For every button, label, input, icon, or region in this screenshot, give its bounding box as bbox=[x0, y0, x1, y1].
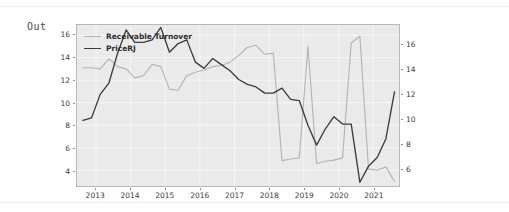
y-axis-right-tick-label: 12 bbox=[406, 90, 416, 99]
axis-tick-mark bbox=[95, 188, 96, 190]
y-axis-right-tick-label: 16 bbox=[406, 40, 416, 49]
axis-tick-mark bbox=[269, 188, 270, 190]
axis-tick-mark bbox=[73, 34, 75, 35]
matplotlib-figure: Receivable Turnover PriceRJ 46810121416 … bbox=[52, 17, 412, 203]
notebook-output-cell: Out Receivable Turnover PriceRJ 4681012 bbox=[0, 6, 509, 203]
axis-tick-mark bbox=[165, 188, 166, 190]
axis-tick-mark bbox=[401, 169, 403, 170]
y-axis-left-tick-label: 14 bbox=[52, 53, 70, 62]
axis-tick-mark bbox=[73, 103, 75, 104]
y-axis-right-tick-label: 6 bbox=[406, 165, 411, 174]
axis-tick-mark bbox=[401, 144, 403, 145]
y-axis-left-tick-label: 12 bbox=[52, 75, 70, 84]
axis-tick-mark bbox=[374, 188, 375, 190]
y-axis-left-tick-label: 8 bbox=[52, 121, 70, 130]
legend-label: PriceRJ bbox=[106, 44, 136, 53]
x-axis-tick-label: 2016 bbox=[190, 191, 209, 200]
x-axis-tick-label: 2021 bbox=[364, 191, 383, 200]
axis-tick-mark bbox=[401, 69, 403, 70]
legend-line-swatch-icon bbox=[84, 48, 101, 49]
legend-item-receivable-turnover: Receivable Turnover bbox=[84, 31, 192, 42]
y-axis-left-tick-label: 10 bbox=[52, 98, 70, 107]
axis-tick-mark bbox=[73, 125, 75, 126]
y-axis-right-tick-label: 10 bbox=[406, 115, 416, 124]
x-axis-tick-label: 2013 bbox=[86, 191, 105, 200]
screenshot-root: Out Receivable Turnover PriceRJ 4681012 bbox=[0, 0, 509, 212]
axis-tick-mark bbox=[401, 94, 403, 95]
axis-tick-mark bbox=[200, 188, 201, 190]
x-axis-tick-label: 2014 bbox=[120, 191, 139, 200]
y-axis-left-tick-label: 16 bbox=[52, 30, 70, 39]
axis-tick-mark bbox=[339, 188, 340, 190]
y-axis-left-tick-label: 4 bbox=[52, 167, 70, 176]
axis-tick-mark bbox=[73, 80, 75, 81]
legend-line-swatch-icon bbox=[84, 36, 101, 37]
x-axis-tick-label: 2015 bbox=[155, 191, 174, 200]
y-axis-right-tick-label: 8 bbox=[406, 140, 411, 149]
axis-tick-mark bbox=[130, 188, 131, 190]
y-axis-left-tick-label: 6 bbox=[52, 144, 70, 153]
x-axis-tick-label: 2017 bbox=[225, 191, 244, 200]
axis-tick-mark bbox=[235, 188, 236, 190]
legend-label: Receivable Turnover bbox=[106, 32, 192, 41]
legend-item-pricerj: PriceRJ bbox=[84, 43, 192, 54]
axis-tick-mark bbox=[73, 57, 75, 58]
output-prompt-label: Out bbox=[27, 21, 47, 32]
x-axis-tick-label: 2019 bbox=[295, 191, 314, 200]
x-axis-tick-label: 2020 bbox=[329, 191, 348, 200]
x-axis-tick-label: 2018 bbox=[260, 191, 279, 200]
axis-tick-mark bbox=[73, 171, 75, 172]
axis-tick-mark bbox=[401, 44, 403, 45]
axis-tick-mark bbox=[401, 119, 403, 120]
y-axis-right-tick-label: 14 bbox=[406, 65, 416, 74]
chart-legend: Receivable Turnover PriceRJ bbox=[84, 31, 192, 55]
axis-tick-mark bbox=[73, 148, 75, 149]
axis-tick-mark bbox=[304, 188, 305, 190]
